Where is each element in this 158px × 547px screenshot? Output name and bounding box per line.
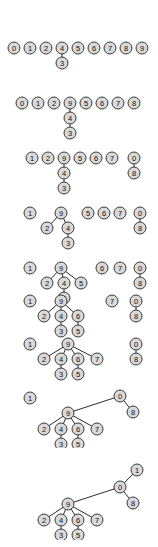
- node-6[interactable]: 6: [98, 207, 110, 219]
- node-label: 2: [44, 44, 48, 53]
- node-1[interactable]: 1: [24, 392, 36, 404]
- node-4[interactable]: 4: [55, 423, 67, 435]
- node-5[interactable]: 5: [74, 152, 86, 164]
- node-2[interactable]: 2: [38, 353, 50, 365]
- node-2[interactable]: 2: [38, 310, 50, 322]
- node-4[interactable]: 4: [55, 310, 67, 322]
- node-6[interactable]: 6: [96, 97, 108, 109]
- node-1[interactable]: 1: [131, 464, 143, 476]
- node-8[interactable]: 8: [127, 497, 139, 509]
- node-1[interactable]: 1: [24, 295, 36, 307]
- node-label: 0: [118, 483, 122, 492]
- node-0[interactable]: 0: [128, 152, 140, 164]
- node-8[interactable]: 8: [128, 97, 140, 109]
- node-0[interactable]: 0: [130, 295, 142, 307]
- node-5[interactable]: 5: [75, 277, 87, 289]
- node-7[interactable]: 7: [106, 295, 118, 307]
- node-2[interactable]: 2: [41, 222, 53, 234]
- node-3[interactable]: 3: [64, 127, 76, 139]
- node-7[interactable]: 7: [91, 353, 103, 365]
- node-4[interactable]: 4: [62, 222, 74, 234]
- node-8[interactable]: 8: [130, 353, 142, 365]
- node-label: 7: [116, 99, 120, 108]
- node-label: 2: [45, 279, 49, 288]
- tree-stage-sequence: 0124567893012956784312956708431956708243…: [0, 0, 158, 547]
- node-4[interactable]: 4: [58, 277, 70, 289]
- node-3[interactable]: 3: [55, 529, 67, 540]
- node-6[interactable]: 6: [72, 353, 84, 365]
- node-6[interactable]: 6: [88, 42, 100, 54]
- node-5[interactable]: 5: [80, 97, 92, 109]
- node-6[interactable]: 6: [72, 310, 84, 322]
- node-label: 7: [118, 264, 122, 273]
- node-9[interactable]: 9: [58, 152, 70, 164]
- node-5[interactable]: 5: [72, 438, 84, 448]
- tree-stage-9: 1089246735: [0, 462, 158, 540]
- node-0[interactable]: 0: [114, 481, 126, 493]
- node-3[interactable]: 3: [58, 182, 70, 194]
- node-2[interactable]: 2: [38, 423, 50, 435]
- node-0[interactable]: 0: [134, 207, 146, 219]
- node-9[interactable]: 9: [55, 295, 67, 307]
- node-6[interactable]: 6: [72, 423, 84, 435]
- node-9[interactable]: 9: [62, 498, 74, 510]
- node-5[interactable]: 5: [82, 207, 94, 219]
- node-5[interactable]: 5: [72, 529, 84, 540]
- node-8[interactable]: 8: [127, 406, 139, 418]
- node-1[interactable]: 1: [24, 207, 36, 219]
- node-5[interactable]: 5: [72, 42, 84, 54]
- node-label: 4: [62, 169, 66, 178]
- node-label: 7: [110, 297, 114, 306]
- node-8[interactable]: 8: [130, 310, 142, 322]
- node-3[interactable]: 3: [55, 438, 67, 448]
- node-4[interactable]: 4: [55, 514, 67, 526]
- node-7[interactable]: 7: [114, 262, 126, 274]
- node-label: 5: [78, 154, 82, 163]
- node-7[interactable]: 7: [106, 152, 118, 164]
- node-0[interactable]: 0: [114, 390, 126, 402]
- node-7[interactable]: 7: [91, 514, 103, 526]
- node-6[interactable]: 6: [90, 152, 102, 164]
- node-8[interactable]: 8: [128, 167, 140, 179]
- node-7[interactable]: 7: [114, 207, 126, 219]
- node-1[interactable]: 1: [24, 262, 36, 274]
- node-0[interactable]: 0: [134, 262, 146, 274]
- node-1[interactable]: 1: [24, 42, 36, 54]
- node-0[interactable]: 0: [8, 42, 20, 54]
- node-7[interactable]: 7: [104, 42, 116, 54]
- node-label: 7: [95, 425, 99, 434]
- node-3[interactable]: 3: [55, 368, 67, 380]
- node-6[interactable]: 6: [72, 514, 84, 526]
- node-1[interactable]: 1: [32, 97, 44, 109]
- node-7[interactable]: 7: [112, 97, 124, 109]
- node-5[interactable]: 5: [72, 368, 84, 380]
- node-9[interactable]: 9: [62, 407, 74, 419]
- node-2[interactable]: 2: [42, 152, 54, 164]
- node-8[interactable]: 8: [134, 222, 146, 234]
- node-9[interactable]: 9: [64, 97, 76, 109]
- node-9[interactable]: 9: [62, 338, 74, 350]
- node-9[interactable]: 9: [55, 207, 67, 219]
- node-6[interactable]: 6: [96, 262, 108, 274]
- node-2[interactable]: 2: [40, 42, 52, 54]
- node-0[interactable]: 0: [16, 97, 28, 109]
- node-4[interactable]: 4: [55, 353, 67, 365]
- node-8[interactable]: 8: [134, 277, 146, 289]
- node-9[interactable]: 9: [136, 42, 148, 54]
- tree-stage-6: 1970824635: [0, 291, 158, 339]
- node-2[interactable]: 2: [41, 277, 53, 289]
- node-3[interactable]: 3: [62, 237, 74, 249]
- node-8[interactable]: 8: [120, 42, 132, 54]
- node-0[interactable]: 0: [130, 338, 142, 350]
- node-3[interactable]: 3: [56, 57, 68, 69]
- node-2[interactable]: 2: [38, 514, 50, 526]
- node-4[interactable]: 4: [56, 42, 68, 54]
- node-1[interactable]: 1: [24, 338, 36, 350]
- node-label: 3: [68, 129, 72, 138]
- node-7[interactable]: 7: [91, 423, 103, 435]
- node-4[interactable]: 4: [58, 167, 70, 179]
- node-2[interactable]: 2: [48, 97, 60, 109]
- node-4[interactable]: 4: [64, 112, 76, 124]
- node-9[interactable]: 9: [55, 262, 67, 274]
- node-1[interactable]: 1: [26, 152, 38, 164]
